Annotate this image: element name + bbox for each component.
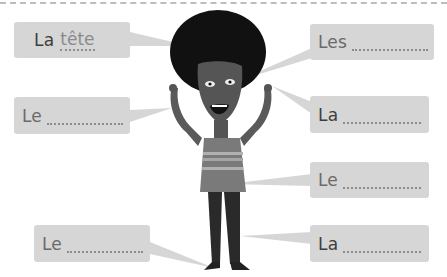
answer-blank[interactable]	[47, 123, 123, 125]
left-leg	[208, 192, 222, 264]
answer-blank[interactable]	[352, 49, 428, 51]
label-foot[interactable]: Le	[34, 225, 150, 262]
label-article: La	[318, 105, 338, 125]
label-leg[interactable]: La	[310, 225, 429, 262]
label-hand[interactable]: La	[310, 96, 429, 133]
label-head: La tête	[14, 22, 130, 58]
label-article: La	[34, 30, 54, 50]
answer-blank[interactable]	[343, 187, 421, 189]
label-article: Les	[318, 32, 347, 52]
label-arm[interactable]: Le	[14, 97, 130, 134]
right-arm	[240, 86, 271, 146]
label-eyes[interactable]: Les	[310, 24, 434, 60]
left-arm	[171, 86, 202, 146]
label-article: La	[318, 234, 338, 254]
label-sweater[interactable]: Le	[310, 162, 429, 198]
answer-blank[interactable]	[343, 122, 421, 124]
label-article: Le	[42, 234, 62, 254]
label-article: Le	[22, 106, 42, 126]
label-article: Le	[318, 170, 338, 190]
face	[198, 61, 243, 124]
right-foot	[230, 262, 250, 270]
sweater	[200, 138, 246, 192]
answer-blank[interactable]	[343, 251, 421, 253]
right-leg	[224, 192, 240, 264]
label-answer: tête	[60, 30, 94, 51]
answer-blank[interactable]	[67, 251, 143, 253]
